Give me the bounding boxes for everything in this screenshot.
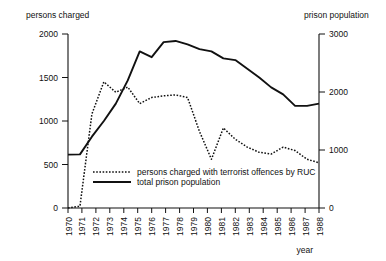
x-tick-1976: 1976 [147,217,157,236]
x-tick-1973: 1973 [105,217,115,236]
chart-figure: persons charged prison population 2000 1… [0,0,386,261]
left-tick-1500: 1500 [39,73,58,83]
x-tick-1988: 1988 [315,217,325,236]
legend-label-total-prison-population: total prison population [137,177,220,187]
x-tick-1987: 1987 [301,217,311,236]
right-tick-0: 0 [329,203,334,213]
x-tick-1984: 1984 [259,217,269,236]
x-tick-1982: 1982 [231,217,241,236]
chart-legend: persons charged with terrorist offences … [93,167,315,187]
right-tick-3000: 3000 [329,29,348,39]
left-tick-500: 500 [44,160,58,170]
right-axis-title: prison population [304,10,369,20]
x-axis-title: year [296,245,313,255]
x-tick-1977: 1977 [161,217,171,236]
x-axis-ticks: 1970 1971 1972 1973 1974 1975 1976 1977 … [64,208,325,236]
series-persons-charged [68,82,319,208]
chart-svg: persons charged prison population 2000 1… [0,0,386,261]
x-tick-1980: 1980 [203,217,213,236]
left-axis-title: persons charged [26,10,90,20]
left-tick-1000: 1000 [39,116,58,126]
series-total-prison-population [68,41,319,155]
x-tick-1978: 1978 [175,217,185,236]
right-tick-1000: 1000 [329,145,348,155]
left-tick-0: 0 [53,203,58,213]
x-tick-1986: 1986 [287,217,297,236]
x-tick-1981: 1981 [217,217,227,236]
x-tick-1979: 1979 [189,217,199,236]
x-tick-1972: 1972 [91,217,101,236]
legend-label-persons-charged: persons charged with terrorist offences … [137,167,315,177]
left-tick-2000: 2000 [39,29,58,39]
right-axis-ticks: 3000 2000 1000 0 [319,29,348,213]
x-tick-1970: 1970 [64,217,74,236]
left-axis-ticks: 2000 1500 1000 500 0 [39,29,68,213]
right-tick-2000: 2000 [329,87,348,97]
x-tick-1985: 1985 [273,217,283,236]
x-tick-1975: 1975 [133,217,143,236]
x-tick-1971: 1971 [77,217,87,236]
x-tick-1974: 1974 [119,217,129,236]
x-tick-1983: 1983 [245,217,255,236]
